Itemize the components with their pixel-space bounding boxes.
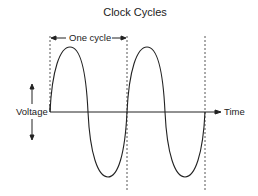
arrow-right-icon: [121, 36, 126, 40]
cycle-label: One cycle: [68, 32, 112, 43]
y-axis-label: Voltage: [16, 106, 48, 117]
time-axis: [50, 104, 221, 114]
x-axis-label: Time: [224, 106, 245, 117]
clock-waveform-diagram: [0, 0, 258, 196]
arrow-right-icon: [215, 110, 221, 114]
arrow-up-icon: [30, 84, 34, 89]
arrow-down-icon: [30, 135, 34, 140]
arrow-left-icon: [51, 36, 56, 40]
